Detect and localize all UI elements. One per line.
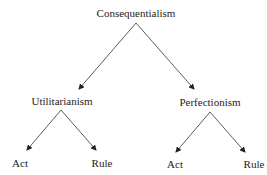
edge-utilitarianism-act	[27, 110, 61, 150]
node-utilitarianism-rule: Rule	[92, 157, 113, 169]
node-consequentialism: Consequentialism	[97, 7, 176, 19]
edge-perfectionism-rule	[210, 112, 245, 152]
edge-utilitarianism-rule	[61, 110, 96, 150]
node-perfectionism-act: Act	[167, 158, 183, 170]
node-perfectionism-rule: Rule	[244, 158, 265, 170]
edge-root-utilitarianism	[79, 23, 136, 89]
edge-perfectionism-act	[176, 112, 210, 152]
edge-root-perfectionism	[136, 23, 194, 89]
node-utilitarianism-act: Act	[12, 157, 28, 169]
consequentialism-tree-diagram: Consequentialism Utilitarianism Perfecti…	[0, 0, 267, 175]
node-utilitarianism: Utilitarianism	[31, 95, 92, 107]
edges-layer	[0, 0, 267, 175]
node-perfectionism: Perfectionism	[179, 96, 240, 108]
